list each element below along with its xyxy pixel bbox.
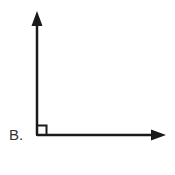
horizontal-ray <box>37 130 166 141</box>
arrowhead-right-icon <box>151 130 166 141</box>
vertical-ray <box>32 11 43 135</box>
right-angle-marker-icon <box>37 126 47 136</box>
arrowhead-up-icon <box>32 11 43 26</box>
diagram-svg <box>0 0 175 175</box>
figure-label: B. <box>9 126 23 143</box>
right-angle-diagram: B. <box>0 0 175 175</box>
